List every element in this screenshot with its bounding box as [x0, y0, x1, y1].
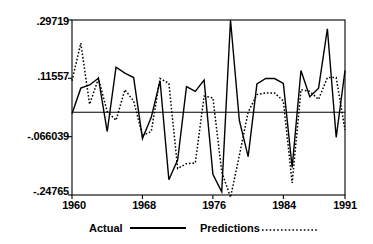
x-tick-label-4: 1991 [327, 199, 363, 211]
x-tick-label-2: 1976 [196, 199, 232, 211]
y-tick-label-0: .29719 [37, 15, 69, 27]
legend-label-actual: Actual [89, 222, 123, 234]
x-tick-label-3: 1984 [266, 199, 302, 211]
y-tick-label-2: -.066039 [27, 130, 69, 142]
legend-label-predictions: Predictions [200, 222, 260, 234]
chart-figure: .29719 .11557 -.066039 -.24765 1960 1968… [0, 0, 373, 244]
x-tick-label-1: 1968 [126, 199, 162, 211]
y-tick-label-1: .11557 [37, 70, 69, 82]
y-tick-label-3: -.24765 [33, 185, 69, 197]
x-tick-label-0: 1960 [56, 199, 92, 211]
